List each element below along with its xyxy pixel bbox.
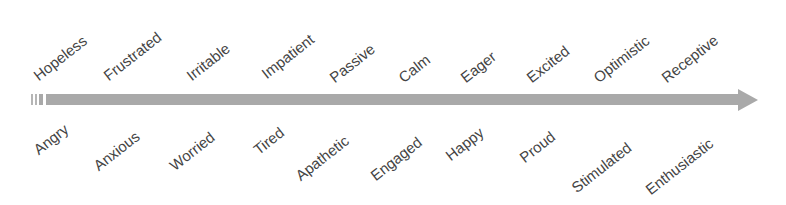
bottom-label: Tired <box>251 124 287 157</box>
bottom-label: Engaged <box>368 134 425 183</box>
top-label: Excited <box>524 43 572 85</box>
arrow-tail-stripe <box>31 94 33 105</box>
arrow-shaft <box>46 94 741 105</box>
top-label: Frustrated <box>101 29 164 83</box>
top-label: Receptive <box>659 32 721 85</box>
bottom-label: Angry <box>31 121 71 157</box>
top-label: Impatient <box>259 31 317 81</box>
bottom-label: Proud <box>517 129 558 165</box>
top-label: Optimistic <box>591 33 652 85</box>
bottom-label: Enthusiastic <box>643 135 716 197</box>
bottom-label: Happy <box>443 124 486 163</box>
arrow-tail-stripe <box>35 94 37 105</box>
top-label: Passive <box>327 41 378 85</box>
top-label: Hopeless <box>31 33 90 83</box>
arrow-head-icon <box>738 89 758 111</box>
bottom-label: Stimulated <box>569 140 634 195</box>
bottom-label: Worried <box>167 129 217 173</box>
bottom-label: Anxious <box>91 128 142 173</box>
top-label: Calm <box>396 52 433 85</box>
arrow-tail-stripe <box>39 94 43 105</box>
top-label: Irritable <box>184 40 233 83</box>
emotion-continuum-diagram: Hopeless Frustrated Irritable Impatient … <box>0 0 786 205</box>
top-label: Eager <box>458 49 499 85</box>
bottom-label: Apathetic <box>293 133 352 183</box>
